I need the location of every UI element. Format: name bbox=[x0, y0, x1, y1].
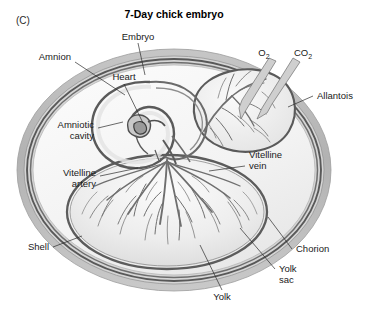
label-heart: Heart bbox=[112, 71, 136, 82]
label-vitelline-artery-line2: artery bbox=[72, 178, 97, 189]
label-carbon-dioxide: CO2 bbox=[294, 47, 312, 60]
label-shell: Shell bbox=[28, 241, 49, 252]
panel-label: (C) bbox=[16, 15, 30, 26]
label-allantois: Allantois bbox=[317, 90, 353, 101]
label-yolk: Yolk bbox=[213, 291, 231, 302]
label-yolk-sac-line1: Yolk bbox=[279, 263, 297, 274]
label-amniotic-cavity-line1: Amniotic bbox=[58, 119, 95, 130]
label-yolk-sac-line2: sac bbox=[279, 274, 294, 285]
chick-embryo-diagram: (C) 7-Day chick embryo Embryo Amnion Hea… bbox=[0, 0, 370, 324]
label-amniotic-cavity-line2: cavity bbox=[70, 130, 95, 141]
figure-title: 7-Day chick embryo bbox=[124, 8, 223, 20]
label-embryo: Embryo bbox=[122, 31, 155, 42]
label-vitelline-artery-line1: Vitelline bbox=[63, 167, 96, 178]
label-chorion: Chorion bbox=[296, 243, 329, 254]
label-amnion: Amnion bbox=[39, 51, 71, 62]
embryo-heart bbox=[134, 122, 147, 135]
label-oxygen: O2 bbox=[258, 47, 269, 60]
label-vitelline-vein-line2: vein bbox=[249, 160, 266, 171]
figure-panel-c: (C) 7-Day chick embryo Embryo Amnion Hea… bbox=[0, 0, 370, 324]
yolk-sac-structure bbox=[67, 155, 267, 269]
label-vitelline-vein-line1: Vitelline bbox=[249, 149, 282, 160]
